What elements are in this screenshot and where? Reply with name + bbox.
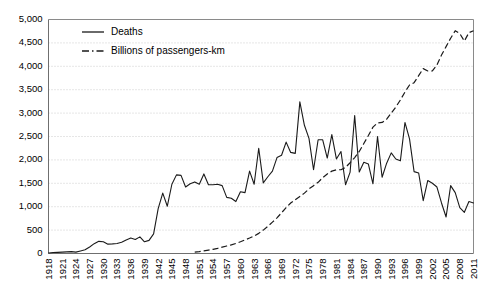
x-axis-tick-label: 1984 [345,259,356,280]
x-axis-tick-label: 1930 [98,259,109,280]
x-axis-tick-labels: 1918192119241927193019331936193919421945… [43,259,479,280]
x-axis-tick-label: 1933 [111,259,122,280]
x-axis-tick-label: 1939 [139,259,150,280]
x-axis-tick-label: 1921 [57,259,68,280]
y-axis-tick-label: 3,000 [19,107,43,118]
x-axis-tick-label: 1966 [262,259,273,280]
x-axis-tick-label: 1918 [43,259,54,280]
y-axis-tick-label: 2,000 [19,153,43,164]
x-axis-tick-label: 2011 [468,259,479,279]
x-axis-tick-label: 1936 [125,259,136,280]
x-axis-tick-label: 1924 [70,259,81,280]
chart-container: 05001,0001,5002,0002,5003,0003,5004,0004… [0,0,487,300]
x-axis-tick-label: 1996 [399,259,410,280]
x-axis-tick-label: 1975 [303,259,314,280]
y-axis-tick-label: 4,500 [19,36,43,47]
x-axis-tick-label: 1957 [221,259,232,280]
chart-legend: DeathsBillions of passengers-km [82,26,225,56]
x-axis-tick-label: 1981 [331,259,342,280]
y-axis-tick-label: 1,500 [19,177,43,188]
x-axis-tick-label: 1987 [358,259,369,280]
x-axis-tick-label: 2005 [440,259,451,280]
y-axis-tick-label: 0 [37,247,42,258]
x-axis-tick-label: 1942 [153,259,164,280]
line-chart: 05001,0001,5002,0002,5003,0003,5004,0004… [0,0,487,300]
legend-label-1: Deaths [111,26,143,37]
x-axis-tick-label: 1945 [166,259,177,280]
y-axis-tick-label: 500 [27,224,43,235]
x-axis-tick-label: 1969 [276,259,287,280]
x-axis-tick-label: 1954 [207,259,218,280]
x-axis-tick-label: 1978 [317,259,328,280]
x-axis-tick-label: 1927 [84,259,95,280]
legend-label-2: Billions of passengers-km [111,45,225,56]
y-axis-tick-label: 1,000 [19,200,43,211]
x-axis-tick-label: 1993 [386,259,397,280]
x-axis-tick-label: 2002 [427,259,438,280]
x-axis-tick-label: 2008 [454,259,465,280]
x-axis-tick-label: 1963 [249,259,260,280]
y-axis-tick-label: 5,000 [19,13,43,24]
x-axis-tick-label: 1951 [194,259,205,280]
y-axis-tick-labels: 05001,0001,5002,0002,5003,0003,5004,0004… [19,13,43,258]
y-axis-tick-label: 3,500 [19,83,43,94]
data-series [49,31,474,253]
series-line-billions-of-passengers-km [195,31,474,252]
y-axis-tick-label: 2,500 [19,130,43,141]
x-axis-tick-label: 1990 [372,259,383,280]
x-axis-tick-label: 1960 [235,259,246,280]
x-axis-tick-label: 1972 [290,259,301,280]
x-axis-tick-label: 1948 [180,259,191,280]
x-axis-tick-label: 1999 [413,259,424,280]
y-axis-tick-label: 4,000 [19,60,43,71]
